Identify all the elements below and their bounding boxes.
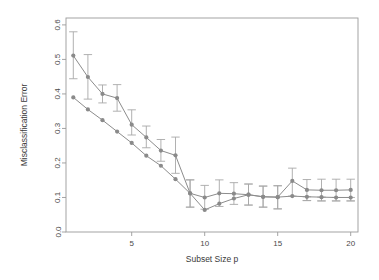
data-point (203, 195, 207, 199)
data-point (319, 195, 323, 199)
chart-figure: 0.00.10.20.30.40.50.6 5101520 Subset Siz… (0, 0, 379, 280)
data-point (173, 153, 177, 157)
data-point (290, 179, 294, 183)
x-tick-label: 5 (129, 239, 134, 248)
y-tick-label: 0.2 (54, 157, 63, 169)
y-tick-label: 0.6 (54, 19, 63, 31)
data-point (290, 194, 294, 198)
data-point (349, 188, 353, 192)
data-point (203, 208, 207, 212)
data-point (71, 95, 75, 99)
x-axis-label: Subset Size p (186, 254, 239, 264)
data-point (159, 164, 163, 168)
data-point (100, 118, 104, 122)
y-tick-label: 0.0 (54, 226, 63, 238)
data-point (334, 195, 338, 199)
x-tick-label: 15 (273, 239, 282, 248)
y-tick-label: 0.3 (54, 122, 63, 134)
data-point (100, 92, 104, 96)
data-point (115, 129, 119, 133)
data-point (334, 188, 338, 192)
data-point (86, 75, 90, 79)
data-point (246, 193, 250, 197)
data-point (349, 195, 353, 199)
data-point (130, 123, 134, 127)
y-tick-label: 0.5 (54, 53, 63, 65)
y-axis-label: Misclassification Error (19, 84, 29, 167)
data-point (217, 191, 221, 195)
misclassification-error-plot: 0.00.10.20.30.40.50.6 5101520 Subset Siz… (0, 0, 379, 280)
data-point (261, 195, 265, 199)
data-point (173, 177, 177, 181)
data-point (188, 191, 192, 195)
data-point (217, 202, 221, 206)
y-tick-label: 0.4 (54, 88, 63, 100)
data-point (144, 154, 148, 158)
data-point (276, 195, 280, 199)
data-point (319, 188, 323, 192)
data-point (144, 135, 148, 139)
data-point (159, 148, 163, 152)
data-point (71, 54, 75, 58)
data-point (305, 195, 309, 199)
y-tick-label: 0.1 (54, 191, 63, 203)
data-point (115, 96, 119, 100)
data-point (86, 107, 90, 111)
x-tick-label: 10 (200, 239, 209, 248)
data-point (130, 141, 134, 145)
data-point (232, 196, 236, 200)
x-tick-label: 20 (346, 239, 355, 248)
data-point (232, 192, 236, 196)
data-point (305, 188, 309, 192)
